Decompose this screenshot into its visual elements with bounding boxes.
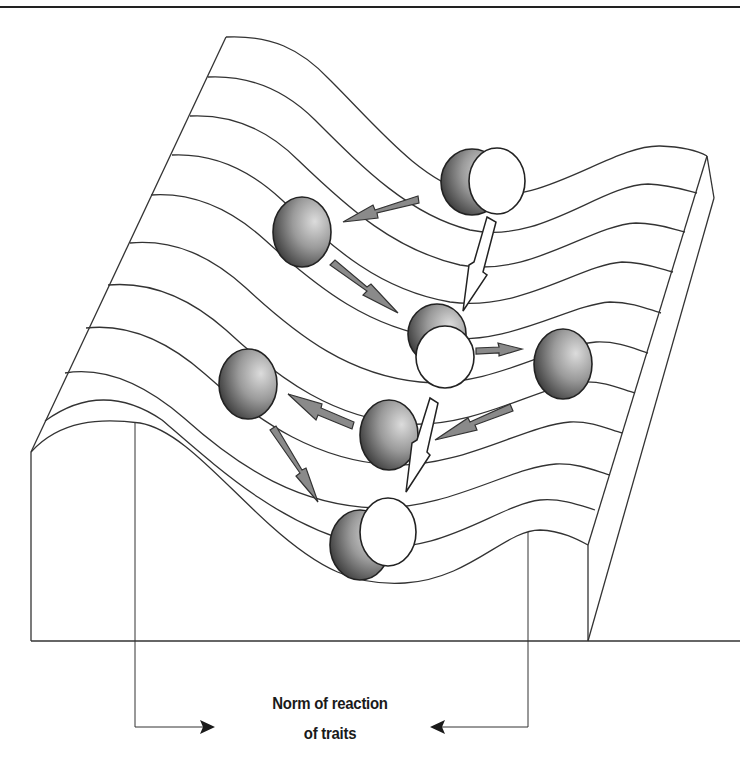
contour-line-5	[151, 195, 661, 339]
white-ball-middle	[416, 326, 474, 388]
landscape-surface	[31, 37, 740, 727]
contour-line-4	[172, 155, 673, 304]
gray-ball-lower-left	[219, 349, 277, 419]
label-norm-of-reaction: Norm of reaction	[242, 694, 418, 714]
gray-ball-right	[534, 329, 592, 399]
white-ball-top	[469, 148, 525, 214]
white-ball-bottom	[360, 498, 416, 566]
gray-arrow-3-icon	[476, 343, 522, 356]
right-inner-edge	[588, 156, 707, 545]
gray-ball-upper-left	[273, 197, 331, 267]
gray-arrow-1-icon	[343, 196, 419, 222]
label-of-traits: of traits	[242, 724, 418, 744]
landscape-diagram	[0, 0, 740, 758]
left-back-edge	[31, 37, 226, 452]
right-top-edge	[707, 156, 714, 198]
balls	[219, 148, 592, 580]
contour-line-9	[65, 372, 610, 508]
contour-line-3	[190, 116, 685, 267]
